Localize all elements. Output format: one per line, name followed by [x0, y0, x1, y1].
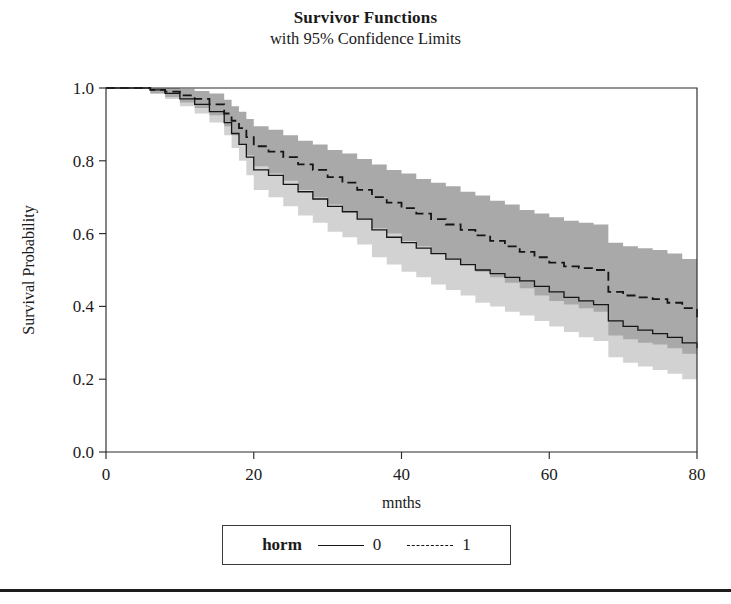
y-tick-label: 0.6 — [73, 225, 94, 244]
y-tick-label: 1.0 — [73, 79, 94, 98]
plot-area: 0.00.20.40.60.81.0020406080mnthsSurvival… — [0, 0, 731, 520]
y-tick-label: 0.4 — [73, 297, 95, 316]
y-tick-label: 0.2 — [73, 370, 94, 389]
survival-chart-figure: Survivor Functions with 95% Confidence L… — [0, 0, 731, 604]
legend-entry-0[interactable]: 0 — [318, 535, 382, 555]
legend-label-0: 0 — [373, 535, 382, 555]
legend: horm 0 1 — [222, 525, 511, 565]
legend-label-1: 1 — [462, 535, 471, 555]
x-tick-label: 80 — [689, 465, 706, 484]
footer-rule — [0, 589, 731, 592]
legend-title: horm — [262, 535, 302, 555]
x-tick-label: 60 — [541, 465, 558, 484]
y-tick-label: 0.8 — [73, 152, 94, 171]
legend-line-dashed-icon — [407, 540, 453, 550]
y-axis-title: Survival Probability — [20, 205, 38, 334]
x-tick-label: 0 — [102, 465, 111, 484]
x-axis-title: mnths — [382, 494, 421, 511]
legend-line-solid-icon — [318, 540, 364, 550]
y-tick-label: 0.0 — [73, 443, 94, 462]
x-tick-label: 40 — [393, 465, 410, 484]
x-tick-label: 20 — [245, 465, 262, 484]
legend-entry-1[interactable]: 1 — [407, 535, 471, 555]
confidence-band-horm-1 — [106, 88, 697, 365]
